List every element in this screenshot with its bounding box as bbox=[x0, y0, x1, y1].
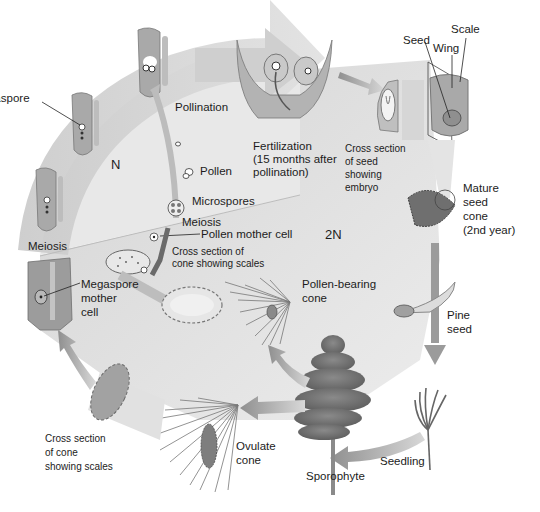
label-megaspore: Megaspore bbox=[0, 92, 30, 105]
label-pollen-bearing-cone-1: Pollen-bearing bbox=[302, 278, 376, 291]
haploid-zone-label: N bbox=[111, 157, 120, 172]
pine-life-cycle-diagram: N 2N Megaspore Pollination Pollen Micros… bbox=[0, 0, 540, 512]
label-scale: Scale bbox=[451, 23, 480, 36]
label-fertilization-1: Fertilization bbox=[253, 140, 312, 153]
diploid-zone-label: 2N bbox=[325, 227, 342, 242]
label-cross-section-cone-top-1: Cross section of bbox=[172, 246, 244, 258]
label-pine-seed-2: seed bbox=[447, 323, 472, 336]
label-mature-cone-4: (2nd year) bbox=[463, 224, 515, 237]
label-cross-section-seed-1: Cross section bbox=[345, 143, 406, 155]
label-megaspore-mother-cell-3: cell bbox=[81, 306, 98, 319]
label-mature-cone-1: Mature bbox=[463, 182, 499, 195]
label-ovulate-cone-1: Ovulate bbox=[236, 440, 276, 453]
microspores-icon bbox=[168, 200, 184, 216]
label-mature-cone-3: cone bbox=[463, 210, 488, 223]
label-fertilization-2: (15 months after bbox=[253, 153, 337, 166]
label-microspores: Microspores bbox=[192, 195, 255, 208]
label-pollen-bearing-cone-2: cone bbox=[302, 292, 327, 305]
label-ovulate-cone-2: cone bbox=[236, 454, 261, 467]
label-pollen: Pollen bbox=[200, 165, 232, 178]
label-sporophyte: Sporophyte bbox=[306, 470, 365, 483]
label-wing: Wing bbox=[433, 42, 459, 55]
label-megaspore-mother-cell-2: mother bbox=[81, 292, 117, 305]
label-cross-section-seed-2: of seed bbox=[345, 156, 378, 168]
label-cross-section-cone-bottom-2: of cone bbox=[45, 447, 78, 459]
label-fertilization-3: pollination) bbox=[253, 166, 309, 179]
label-megaspore-mother-cell-1: Megaspore bbox=[81, 278, 139, 291]
label-cross-section-seed-3: showing bbox=[345, 169, 382, 181]
label-pollen-mother-cell: Pollen mother cell bbox=[201, 228, 292, 241]
label-cross-section-cone-top-2: cone showing scales bbox=[172, 258, 264, 270]
label-cross-section-cone-bottom-1: Cross section bbox=[45, 433, 106, 445]
label-meiosis-left: Meiosis bbox=[28, 240, 67, 253]
label-cross-section-cone-bottom-3: showing scales bbox=[45, 461, 113, 473]
label-cross-section-seed-4: embryo bbox=[345, 182, 378, 194]
pollen-cone-scales bbox=[162, 287, 222, 323]
label-seed: Seed bbox=[403, 34, 430, 47]
label-seedling: Seedling bbox=[380, 455, 425, 468]
label-pollination: Pollination bbox=[175, 101, 228, 114]
label-pine-seed-1: Pine bbox=[447, 309, 470, 322]
label-mature-cone-2: seed bbox=[463, 196, 488, 209]
